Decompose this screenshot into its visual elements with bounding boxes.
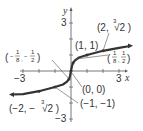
svg-text:1: 1 [122,50,126,56]
svg-text:1: 1 [16,49,20,55]
label-neg2-neg-cbrt2: (−2, − 3 √2 ) [9,99,59,114]
svg-text:1: 1 [113,50,117,56]
svg-text:,: , [21,56,23,62]
label-neg1-neg1: (−1, −1) [80,98,115,109]
label-1-1: (1, 1) [75,40,98,51]
cube-root-graph: y x 3 −3 −3 3 (2, 3 √2 ) (1, 1) ( 1 8 , [0,0,143,131]
curve-arrow-left [9,92,14,97]
svg-text:−: − [24,53,28,59]
x-max-label: 3 [116,73,122,84]
svg-text:2: 2 [122,58,126,64]
y-max-label: 3 [61,17,67,28]
svg-text:(−2, −: (−2, − [9,103,35,114]
label-neg-eighth-half: ( − 1 8 , − 1 2 ) [5,49,40,63]
svg-text:√2 ): √2 ) [42,103,59,114]
y-axis-label: y [62,5,68,16]
x-min-label: −3 [14,73,26,84]
svg-text:(2,: (2, [97,22,109,33]
x-axis-label: x [124,72,130,83]
svg-text:): ) [127,53,130,64]
label-0-0: (0, 0) [82,84,105,95]
label-2-cbrt2: (2, 3 √2 ) [97,18,131,33]
curve-arrow-right [128,43,133,48]
svg-text:√2 ): √2 ) [114,22,131,33]
svg-text:2: 2 [31,57,35,63]
y-min-label: −3 [55,113,67,124]
svg-text:1: 1 [31,49,35,55]
label-eighth-half: ( 1 8 , 1 2 ) [107,50,130,64]
svg-text:8: 8 [16,57,20,63]
svg-text:(: ( [107,53,111,64]
svg-text:8: 8 [113,58,117,64]
y-axis-arrow [70,7,73,11]
svg-text:): ) [37,52,40,63]
svg-text:(: ( [5,52,9,63]
svg-text:−: − [10,53,14,59]
svg-text:,: , [118,57,120,63]
